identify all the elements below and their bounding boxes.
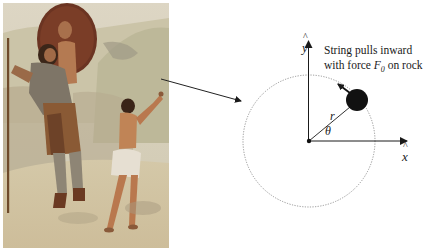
caption-line-1: String pulls inward [324,43,423,58]
figure: y x r θ String pulls inward with force F… [0,0,443,251]
force-caption: String pulls inward with force F0 on roc… [324,43,423,77]
caption-line-2: with force F0 on rock [324,58,423,77]
radius-label: r [330,109,335,124]
rock [346,89,368,111]
y-axis-label: y [302,40,308,56]
origin-dot [307,139,311,143]
angle-label: θ [325,124,331,139]
david-goliath-painting [3,3,169,248]
x-axis-label: x [402,149,408,165]
force-symbol: F [374,59,381,71]
orbit-circle [243,75,375,207]
pointer-arrow [161,79,241,101]
force-arrow [338,84,350,93]
